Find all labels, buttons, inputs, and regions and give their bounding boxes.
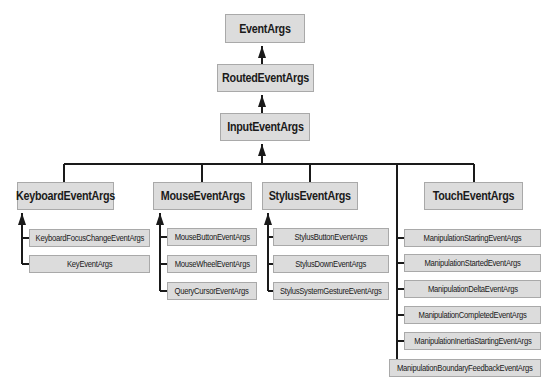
node-label: ManipulationCompletedEventArgs: [418, 310, 526, 320]
keyboardeventargs-node: KeyboardEventArgs: [17, 182, 114, 210]
stylussystemgestureeventargs-node: StylusSystemGestureEventArgs: [273, 282, 389, 300]
mousebuttoneventargs-node: MouseButtonEventArgs: [167, 228, 257, 246]
keyboardfocuschangeeventargs-node: KeyboardFocusChangeEventArgs: [29, 229, 150, 247]
manipulationstartedeventargs-node: ManipulationStartedEventArgs: [404, 254, 541, 272]
node-label: ManipulationDeltaEventArgs: [428, 284, 518, 294]
mousewheeleventargs-node: MouseWheelEventArgs: [167, 255, 257, 273]
routedeventargs-node: RoutedEventArgs: [217, 64, 314, 92]
node-label: MouseButtonEventArgs: [174, 232, 249, 242]
stylusbuttoneventargs-node: StylusButtonEventArgs: [273, 228, 389, 246]
node-label: TouchEventArgs: [433, 189, 515, 203]
node-label: MouseEventArgs: [160, 189, 244, 203]
node-label: ManipulationInertiaStartingEventArgs: [414, 336, 531, 346]
node-label: EventArgs: [239, 22, 290, 36]
manipulationboundaryfeedbackeventargs-node: ManipulationBoundaryFeedbackEventArgs: [389, 359, 541, 377]
node-label: ManipulationBoundaryFeedbackEventArgs: [397, 363, 533, 373]
manipulationstartingeventargs-node: ManipulationStartingEventArgs: [404, 229, 541, 247]
node-label: KeyboardEventArgs: [16, 189, 115, 203]
manipulationcompletedeventargs-node: ManipulationCompletedEventArgs: [404, 306, 541, 324]
node-label: MouseWheelEventArgs: [174, 259, 249, 269]
node-label: StylusDownEventArgs: [296, 259, 367, 269]
inputeventargs-node: InputEventArgs: [220, 113, 310, 141]
node-label: StylusSystemGestureEventArgs: [280, 286, 382, 296]
node-label: StylusButtonEventArgs: [295, 232, 368, 242]
manipulationinertiastartingeventargs-node: ManipulationInertiaStartingEventArgs: [404, 332, 541, 350]
node-label: InputEventArgs: [227, 120, 303, 134]
node-label: RoutedEventArgs: [222, 71, 309, 85]
node-label: ManipulationStartedEventArgs: [424, 258, 520, 268]
toucheventargs-node: TouchEventArgs: [424, 182, 523, 210]
node-label: ManipulationStartingEventArgs: [424, 233, 522, 243]
node-label: KeyEventArgs: [67, 259, 112, 269]
keyeventargs-node: KeyEventArgs: [29, 255, 150, 273]
manipulationdeltaeventargs-node: ManipulationDeltaEventArgs: [404, 280, 541, 298]
node-label: QueryCursorEventArgs: [175, 286, 249, 296]
node-label: StylusEventArgs: [269, 189, 351, 203]
eventargs-node: EventArgs: [225, 14, 305, 43]
mouseeventargs-node: MouseEventArgs: [153, 182, 252, 210]
node-label: KeyboardFocusChangeEventArgs: [35, 233, 144, 243]
querycursoreventargs-node: QueryCursorEventArgs: [167, 282, 257, 300]
styluseventargs-node: StylusEventArgs: [262, 182, 358, 210]
stylusdowneventargs-node: StylusDownEventArgs: [273, 255, 389, 273]
